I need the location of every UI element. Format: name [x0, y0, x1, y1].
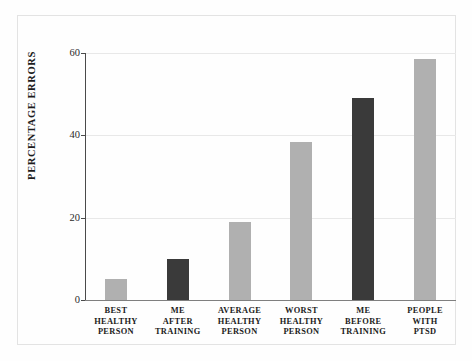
y-tick: 40	[50, 129, 80, 141]
x-tick-label: WORSTHEALTHYPERSON	[273, 306, 331, 338]
x-tick-label: AVERAGEHEALTHYPERSON	[211, 306, 269, 338]
x-tick-label-line: PEOPLE	[396, 306, 454, 317]
x-tick-label-line: PTSD	[396, 327, 454, 338]
x-tick-label: MEAFTERTRAINING	[149, 306, 207, 338]
bar	[105, 279, 127, 300]
x-tick-label-line: WORST	[273, 306, 331, 317]
bar	[290, 142, 312, 300]
bar-chart-figure: PERCENTAGE ERRORS 0204060 BESTHEALTHYPER…	[0, 0, 472, 361]
x-tick-label: PEOPLEWITHPTSD	[396, 306, 454, 338]
y-axis-title: PERCENTAGE ERRORS	[26, 41, 37, 191]
x-tick-label-line: BEST	[87, 306, 145, 317]
y-tick-label: 40	[54, 129, 80, 140]
x-tick-label-line: ME	[149, 306, 207, 317]
x-tick-label-line: HEALTHY	[273, 317, 331, 328]
y-tick-label: 60	[54, 47, 80, 58]
x-tick-label-line: ME	[334, 306, 392, 317]
bar	[414, 59, 436, 300]
y-tick: 20	[50, 212, 80, 224]
y-tick-label: 20	[54, 212, 80, 223]
plot-area	[85, 45, 455, 300]
y-tick: 60	[50, 47, 80, 59]
x-axis-line	[85, 300, 456, 301]
x-tick-label-line: BEFORE	[334, 317, 392, 328]
x-tick-label-line: TRAINING	[334, 327, 392, 338]
y-tick-label: 0	[54, 294, 80, 305]
x-tick-label-line: PERSON	[273, 327, 331, 338]
bar	[352, 98, 374, 300]
x-tick-label: MEBEFORETRAINING	[334, 306, 392, 338]
bar	[167, 259, 189, 300]
x-tick-label-line: AVERAGE	[211, 306, 269, 317]
x-tick-label-line: WITH	[396, 317, 454, 328]
x-tick-label: BESTHEALTHYPERSON	[87, 306, 145, 338]
x-tick-label-line: PERSON	[87, 327, 145, 338]
bar	[229, 222, 251, 300]
y-tick: 0	[50, 294, 80, 306]
x-tick-label-line: AFTER	[149, 317, 207, 328]
x-tick-label-line: HEALTHY	[87, 317, 145, 328]
x-tick-label-line: TRAINING	[149, 327, 207, 338]
x-tick-label-line: PERSON	[211, 327, 269, 338]
x-tick-label-line: HEALTHY	[211, 317, 269, 328]
